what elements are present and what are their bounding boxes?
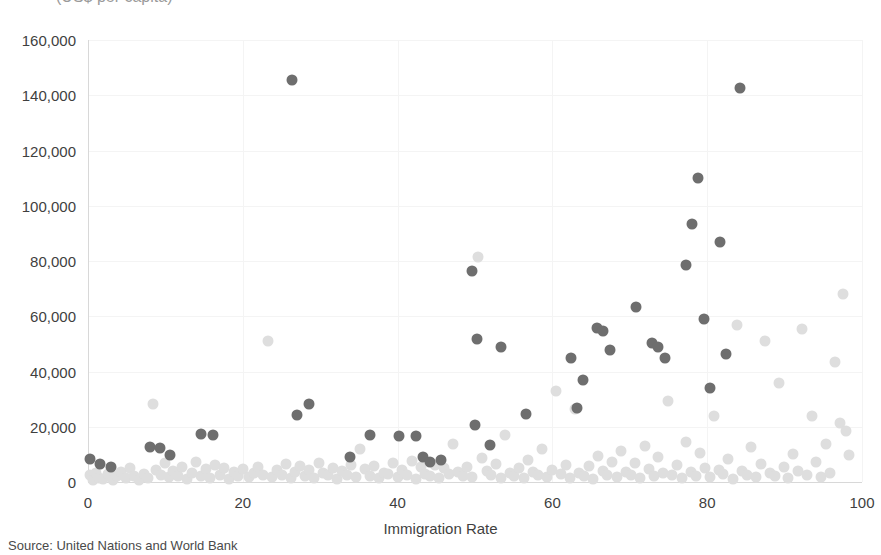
- scatter-point: [829, 356, 840, 367]
- scatter-point: [639, 440, 650, 451]
- scatter-point: [735, 82, 746, 93]
- scatter-point: [797, 323, 808, 334]
- y-tick-label: 0: [0, 474, 76, 491]
- chart-subtitle: (US$ per capita): [56, 0, 173, 6]
- scatter-point: [604, 344, 615, 355]
- scatter-point: [630, 301, 641, 312]
- scatter-point: [732, 320, 743, 331]
- scatter-point: [760, 335, 771, 346]
- x-tick-label: 40: [389, 494, 406, 511]
- scatter-point: [672, 460, 683, 471]
- gridline-horizontal: [88, 151, 862, 152]
- scatter-point: [154, 443, 165, 454]
- gridline-horizontal: [88, 316, 862, 317]
- scatter-point: [652, 341, 663, 352]
- scatter-point: [630, 458, 641, 469]
- scatter-point: [394, 430, 405, 441]
- scatter-point: [572, 402, 583, 413]
- gridline-vertical: [552, 40, 553, 482]
- y-tick-label: 80,000: [0, 253, 76, 270]
- x-axis-label: Immigration Rate: [0, 520, 881, 537]
- x-tick-label: 60: [544, 494, 561, 511]
- scatter-point: [695, 447, 706, 458]
- source-note: Source: United Nations and World Bank: [8, 538, 238, 553]
- x-tick-label: 80: [699, 494, 716, 511]
- scatter-point: [435, 454, 446, 465]
- scatter-point: [262, 335, 273, 346]
- gridline-vertical: [243, 40, 244, 482]
- scatter-point: [660, 352, 671, 363]
- gridline-vertical: [862, 40, 863, 482]
- subtitle-clip: (US$ per capita): [0, 0, 881, 12]
- scatter-point: [523, 455, 534, 466]
- scatter-point: [551, 385, 562, 396]
- scatter-point: [699, 314, 710, 325]
- scatter-point: [705, 382, 716, 393]
- scatter-point: [148, 398, 159, 409]
- scatter-point: [448, 438, 459, 449]
- scatter-point: [720, 349, 731, 360]
- scatter-point: [473, 252, 484, 263]
- scatter-point: [500, 429, 511, 440]
- scatter-point: [662, 395, 673, 406]
- x-tick-label: 100: [849, 494, 874, 511]
- x-axis-line: [88, 482, 862, 483]
- scatter-point: [560, 459, 571, 470]
- scatter-point: [364, 430, 375, 441]
- gridline-horizontal: [88, 206, 862, 207]
- scatter-point: [411, 431, 422, 442]
- y-tick-label: 120,000: [0, 142, 76, 159]
- scatter-point: [537, 444, 548, 455]
- scatter-point: [616, 446, 627, 457]
- gridline-horizontal: [88, 95, 862, 96]
- scatter-point: [588, 473, 599, 484]
- scatter-point: [681, 259, 692, 270]
- y-tick-label: 100,000: [0, 197, 76, 214]
- scatter-point: [788, 448, 799, 459]
- scatter-point: [690, 470, 701, 481]
- scatter-point: [843, 450, 854, 461]
- scatter-point: [598, 326, 609, 337]
- scatter-point: [350, 472, 361, 483]
- scatter-point: [755, 459, 766, 470]
- scatter-point: [466, 471, 477, 482]
- scatter-point: [344, 452, 355, 463]
- y-tick-label: 60,000: [0, 308, 76, 325]
- gridline-horizontal: [88, 40, 862, 41]
- y-tick-label: 40,000: [0, 363, 76, 380]
- scatter-point: [521, 409, 532, 420]
- scatter-point: [578, 374, 589, 385]
- scatter-point: [495, 342, 506, 353]
- scatter-point: [593, 451, 604, 462]
- scatter-point: [313, 457, 324, 468]
- scatter-point: [606, 457, 617, 468]
- scatter-point: [825, 467, 836, 478]
- scatter-point: [837, 289, 848, 300]
- scatter-point: [425, 456, 436, 467]
- scatter-point: [746, 442, 757, 453]
- y-tick-label: 140,000: [0, 87, 76, 104]
- scatter-point: [470, 420, 481, 431]
- scatter-point: [472, 334, 483, 345]
- scatter-point: [653, 452, 664, 463]
- scatter-point: [714, 237, 725, 248]
- y-tick-label: 160,000: [0, 32, 76, 49]
- gridline-horizontal: [88, 372, 862, 373]
- scatter-point: [106, 461, 117, 472]
- scatter-chart: 020,00040,00060,00080,000100,000120,0001…: [0, 12, 881, 524]
- scatter-point: [778, 461, 789, 472]
- scatter-point: [802, 469, 813, 480]
- scatter-point: [686, 218, 697, 229]
- scatter-point: [291, 409, 302, 420]
- scatter-point: [196, 428, 207, 439]
- x-tick-label: 20: [234, 494, 251, 511]
- scatter-point: [774, 378, 785, 389]
- y-tick-label: 20,000: [0, 418, 76, 435]
- scatter-point: [476, 452, 487, 463]
- scatter-point: [709, 410, 720, 421]
- scatter-point: [811, 456, 822, 467]
- scatter-point: [490, 459, 501, 470]
- scatter-point: [565, 352, 576, 363]
- scatter-point: [820, 438, 831, 449]
- x-tick-label: 0: [84, 494, 92, 511]
